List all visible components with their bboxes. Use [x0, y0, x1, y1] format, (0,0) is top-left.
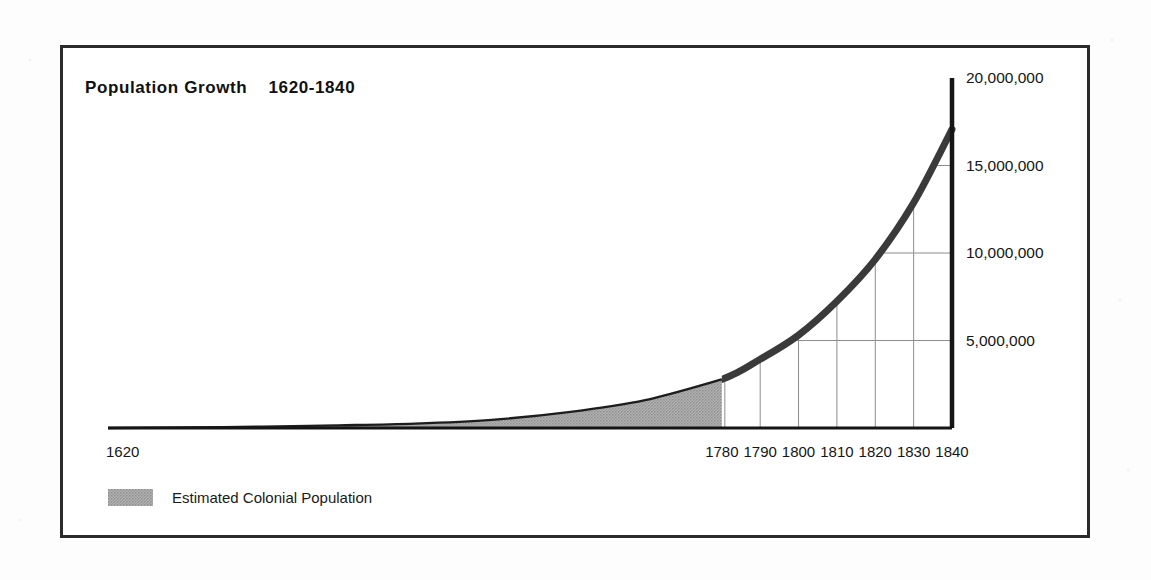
y-axis-tick-labels: 5,000,00010,000,00015,000,00020,000,000 [966, 69, 1044, 349]
x-tick-label-1840: 1840 [935, 443, 968, 460]
x-axis-tick-labels: 16201780179018001810182018301840 [106, 443, 969, 460]
y-tick-label-10000000: 10,000,000 [966, 244, 1044, 261]
horizontal-gridlines [794, 166, 952, 341]
x-tick-label-1800: 1800 [782, 443, 815, 460]
population-growth-curve [108, 129, 952, 428]
y-tick-label-15000000: 15,000,000 [966, 157, 1044, 174]
x-tick-label-1810: 1810 [820, 443, 853, 460]
x-tick-label-1830: 1830 [897, 443, 930, 460]
x-tick-label-1820: 1820 [859, 443, 892, 460]
legend-label-colonial: Estimated Colonial Population [172, 489, 372, 506]
population-growth-chart: 16201780179018001810182018301840 5,000,0… [0, 0, 1151, 580]
vertical-gridlines [725, 132, 952, 428]
x-tick-label-1790: 1790 [743, 443, 776, 460]
y-tick-label-20000000: 20,000,000 [966, 69, 1044, 86]
y-tick-label-5000000: 5,000,000 [966, 332, 1035, 349]
legend-swatch-colonial [108, 489, 153, 506]
x-tick-label-1620: 1620 [106, 443, 139, 460]
x-tick-label-1780: 1780 [705, 443, 738, 460]
